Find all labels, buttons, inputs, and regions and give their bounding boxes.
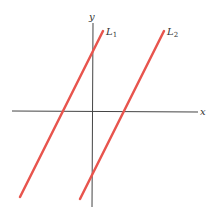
y-axis-label: y (88, 11, 95, 22)
line-l1 (20, 31, 103, 197)
l1-label-sub: 1 (113, 31, 117, 39)
x-axis-label: x (200, 106, 206, 117)
coordinate-diagram: x y L1 L2 (0, 0, 215, 215)
l2-label-sub: 2 (174, 31, 178, 39)
l1-label: L1 (105, 26, 117, 39)
x-axis (12, 111, 198, 112)
l2-label: L2 (166, 26, 178, 39)
